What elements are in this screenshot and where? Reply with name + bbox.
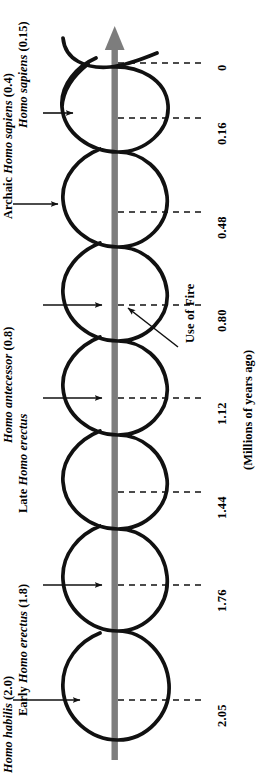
tick-label-112: 1.12: [216, 402, 229, 425]
tick-label-048: 0.48: [216, 216, 229, 239]
label-late-head: Late: [16, 486, 30, 513]
label-early-italic: Homo erectus: [16, 611, 30, 683]
label-habilis-tail: (2.0): [1, 676, 15, 703]
use-of-fire-leader: [128, 308, 178, 347]
label-antecessor-tail: (0.8): [1, 326, 15, 353]
label-archaic-italic: Homo sapiens: [1, 100, 15, 173]
annotation-use-of-fire: Use of Fire: [184, 284, 196, 343]
tick-label-144: 1.44: [216, 496, 229, 519]
tick-label-176: 1.76: [216, 589, 229, 612]
tick-label-0: 0: [216, 65, 229, 72]
figure-graphics: [0, 0, 271, 782]
tick-label-016: 0.16: [216, 122, 229, 145]
label-homo-habilis: Homo habilis (2.0): [2, 676, 14, 773]
label-homo-sapiens-italic: Homo sapiens: [16, 55, 30, 128]
label-archaic-head: Archaic: [1, 174, 15, 219]
label-homo-sapiens-tail: (0.15): [16, 21, 30, 54]
axis-title: (Millions of years ago): [242, 350, 254, 470]
tick-label-205: 2.05: [216, 704, 229, 727]
label-habilis-italic: Homo habilis: [1, 703, 15, 773]
label-early-homo-erectus: Early Homo erectus (1.8): [17, 584, 29, 716]
label-antecessor-italic: Homo antecessor: [1, 354, 15, 443]
label-homo-antecessor: Homo antecessor (0.8): [2, 326, 14, 443]
label-archaic-homo-sapiens: Archaic Homo sapiens (0.4): [2, 73, 14, 219]
tick-label-080: 0.80: [216, 309, 229, 332]
label-late-homo-erectus: Late Homo erectus: [17, 414, 29, 513]
label-homo-sapiens: Homo sapiens (0.15): [17, 21, 29, 128]
label-late-italic: Homo erectus: [16, 414, 30, 486]
label-early-tail: (1.8): [16, 584, 30, 611]
label-archaic-tail: (0.4): [1, 73, 15, 100]
evolution-timeline-figure: Homo sapiens (0.15) Archaic Homo sapiens…: [0, 0, 271, 782]
time-axis-arrow: [105, 26, 125, 760]
label-early-head: Early: [16, 683, 30, 716]
